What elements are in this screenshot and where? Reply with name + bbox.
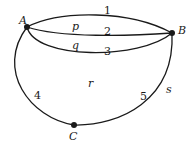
face-s-label: s — [166, 83, 172, 96]
vertex-c-dot — [71, 122, 77, 128]
vertex-c-label: C — [69, 130, 78, 143]
edge-5-label: 5 — [140, 90, 147, 103]
edge-3 — [27, 27, 172, 53]
vertex-b-dot — [169, 30, 175, 36]
edge-2-label: 2 — [104, 25, 111, 38]
graph-diagram: A B C 1 2 3 4 5 p q r s — [0, 0, 192, 148]
edge-2 — [27, 27, 172, 35]
edge-1-label: 1 — [104, 4, 111, 17]
face-q-label: q — [72, 39, 79, 52]
vertex-b-label: B — [177, 24, 186, 37]
vertex-a-label: A — [18, 14, 27, 27]
face-r-label: r — [88, 77, 94, 90]
edge-3-label: 3 — [104, 45, 111, 58]
edge-4 — [15, 27, 74, 125]
edge-1 — [27, 15, 172, 33]
edge-4-label: 4 — [34, 89, 41, 102]
face-p-label: p — [72, 20, 79, 33]
